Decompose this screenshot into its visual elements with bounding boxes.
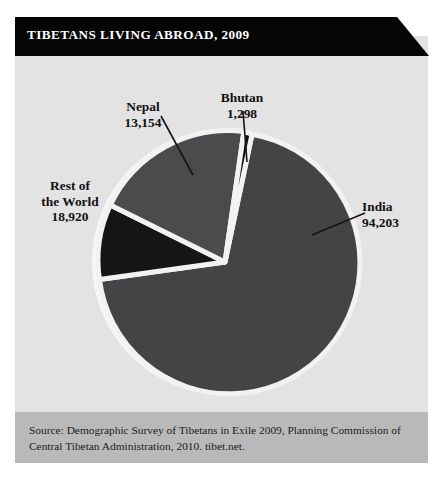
slice-label-rest-of-world-name-line1: Rest of [50,178,90,193]
slice-label-india-name: India [362,199,393,214]
slice-label-nepal: Nepal 13,154 [105,99,181,130]
slice-label-nepal-value: 13,154 [105,115,181,131]
slice-label-nepal-name: Nepal [126,99,159,114]
slice-label-india: India 94,203 [362,199,426,230]
figure-container: TIBETANS LIVING ABROAD, 2009 Bhutan 1,29… [0,0,446,480]
source-note: Source: Demographic Survey of Tibetans i… [29,422,414,454]
source-note-line1: Source: Demographic Survey of Tibetans i… [29,422,414,438]
slice-label-bhutan: Bhutan 1,298 [207,90,277,121]
slice-label-bhutan-value: 1,298 [207,106,277,122]
slice-label-bhutan-name: Bhutan [221,90,263,105]
source-note-line2: Central Tibetan Administration, 2010. ti… [29,438,414,454]
slice-label-rest-of-world: Rest of the World 18,920 [22,178,118,225]
slice-label-india-value: 94,203 [362,215,426,231]
slice-label-rest-of-world-name-line2: the World [22,194,118,210]
slice-label-rest-of-world-value: 18,920 [22,209,118,225]
